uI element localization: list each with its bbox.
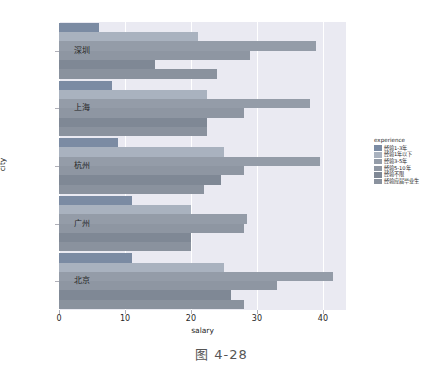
legend-item-label: 经验1年以下 [384,152,412,157]
legend-swatch-icon [374,145,382,151]
bar [59,263,224,272]
legend-item-label: 经验3-5年 [384,159,407,164]
x-tick-label-20: 20 [179,314,203,323]
bar [59,147,224,156]
figure-4-28: 深圳上海杭州广州北京010203040 experience 经验1-3年经验1… [0,0,443,380]
x-tick-mark [125,310,126,314]
x-axis-label: salary [59,326,346,335]
y-tick-mark [55,224,59,225]
bar [59,185,204,194]
x-tick-mark [191,310,192,314]
y-tick-label-北京: 北京 [30,277,90,285]
bar [59,23,99,32]
legend-item-label: 经验不限 [384,172,404,177]
y-tick-mark [55,281,59,282]
y-tick-mark [55,51,59,52]
bar-group-广州 [59,196,346,252]
bar [59,90,207,99]
bar [59,69,217,78]
x-tick-mark [257,310,258,314]
bar [59,175,221,184]
figure-caption: 图 4-28 [0,344,443,363]
x-tick-label-40: 40 [311,314,335,323]
bar [59,281,277,290]
bar [59,196,132,205]
bar [59,41,316,50]
bar [59,253,132,262]
legend-swatch-icon [374,159,382,165]
y-tick-label-深圳: 深圳 [30,47,90,55]
y-tick-mark [55,166,59,167]
y-tick-mark [55,108,59,109]
bar [59,290,231,299]
bar [59,32,198,41]
legend-rows: 经验1-3年经验1年以下经验3-5年经验5-10年经验不限经验应届毕业生 [374,145,419,185]
x-tick-mark [59,310,60,314]
y-tick-label-上海: 上海 [30,104,90,112]
bar-group-北京 [59,253,346,309]
x-tick-label-10: 10 [113,314,137,323]
bar [59,205,191,214]
bar [59,118,207,127]
bar [59,157,320,166]
bar-group-杭州 [59,138,346,194]
bar [59,60,155,69]
y-axis-label: city [0,158,7,172]
bar [59,99,310,108]
legend-swatch-icon [374,172,382,178]
bar [59,81,112,90]
legend-swatch-icon [374,152,382,158]
legend-swatch-icon [374,179,382,185]
chart-legend: experience 经验1-3年经验1年以下经验3-5年经验5-10年经验不限… [374,137,419,185]
bar [59,300,244,309]
legend-item: 经验3-5年 [374,159,419,165]
y-tick-label-杭州: 杭州 [30,162,90,170]
x-tick-label-0: 0 [47,314,71,323]
legend-item-label: 经验应届毕业生 [384,179,419,184]
bar [59,127,207,136]
bar-group-上海 [59,81,346,137]
legend-item: 经验应届毕业生 [374,179,419,185]
bar-group-深圳 [59,23,346,79]
bar [59,272,333,281]
bar [59,138,118,147]
x-tick-label-30: 30 [245,314,269,323]
plot-area [59,22,346,310]
legend-title: experience [374,137,419,143]
bar [59,233,191,242]
legend-swatch-icon [374,166,382,172]
y-tick-label-广州: 广州 [30,220,90,228]
bar [59,242,191,251]
x-tick-mark [323,310,324,314]
